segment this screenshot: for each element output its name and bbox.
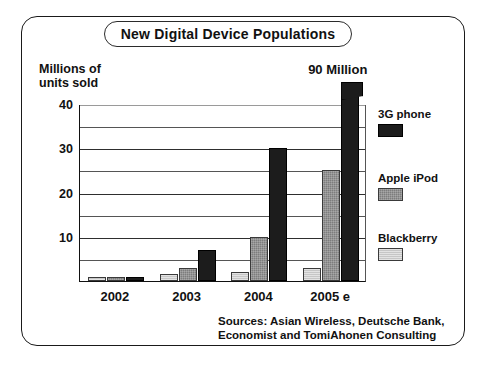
bar-blackberry-2004: [231, 272, 249, 281]
x-tick-2003: 2003: [151, 289, 223, 304]
x-tick-2005-e: 2005 e: [294, 289, 366, 304]
gridline-30: [80, 149, 365, 150]
page-title: New Digital Device Populations: [121, 26, 336, 42]
bar-3g-phone-2002: [126, 277, 144, 281]
x-tick-2004: 2004: [223, 289, 295, 304]
legend-label: Blackberry: [378, 232, 437, 244]
bar-blackberry-2005-e: [303, 268, 321, 281]
legend-label: 3G phone: [378, 108, 431, 120]
legend-item-blackberry: Blackberry: [378, 232, 437, 261]
chart-title-box: New Digital Device Populations: [104, 21, 352, 47]
bar-apple-ipod-2004: [250, 237, 268, 281]
legend-item-3g-phone: 3G phone: [378, 108, 431, 137]
source-note: Sources: Asian Wireless, Deutsche Bank, …: [218, 314, 456, 342]
chart-figure: New Digital Device Populations Millions …: [0, 0, 486, 366]
plot-area: 10203040: [79, 105, 366, 282]
bar-apple-ipod-2005-e: [322, 170, 340, 281]
bar-blackberry-2002: [88, 277, 106, 281]
y-tick-40: 40: [59, 98, 80, 112]
legend-swatch-icon: [378, 248, 403, 261]
x-tick-2002: 2002: [79, 289, 151, 304]
gridline-35: [80, 127, 365, 128]
y-tick-10: 10: [59, 231, 80, 245]
bar-3g-phone-2005-e: [341, 96, 359, 281]
legend-swatch-icon: [378, 124, 403, 137]
y-tick-20: 20: [59, 187, 80, 201]
legend-swatch-icon: [378, 188, 403, 201]
legend-label: Apple iPod: [378, 172, 438, 184]
bar-apple-ipod-2003: [179, 268, 197, 281]
y-tick-30: 30: [59, 142, 80, 156]
gridline-40: [80, 105, 365, 106]
bar-3g-phone-2004: [269, 148, 287, 281]
bar-blackberry-2003: [160, 274, 178, 281]
y-axis-label: Millions of units sold: [39, 62, 101, 90]
annotation-90-million: 90 Million: [308, 62, 367, 77]
legend-item-apple-ipod: Apple iPod: [378, 172, 438, 201]
bar-apple-ipod-2002: [107, 277, 125, 281]
bar-3g-phone-2003: [198, 250, 216, 281]
